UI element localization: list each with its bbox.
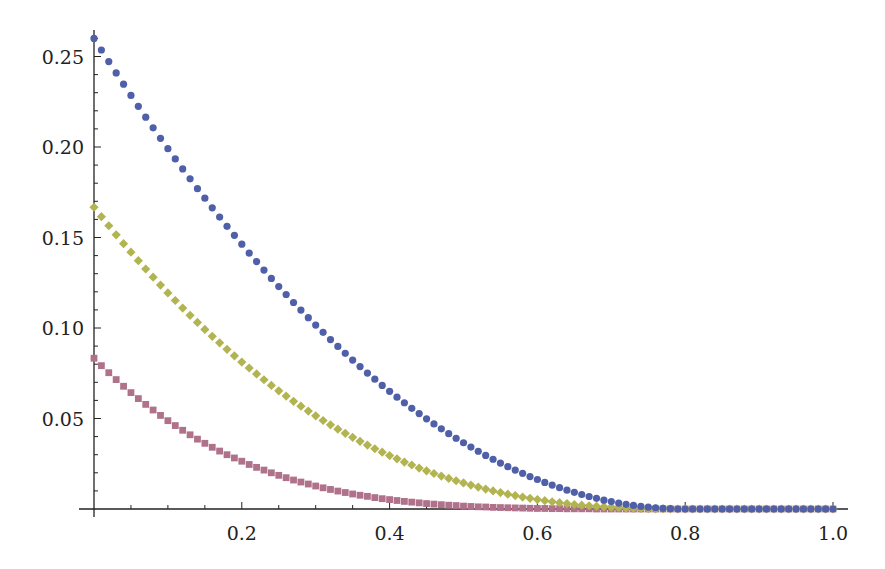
data-point-circle [319, 329, 326, 336]
data-point-circle [497, 459, 504, 466]
x-tick-label: 0.4 [374, 522, 404, 544]
tick-labels: 0.20.40.60.81.00.050.100.150.200.25 [42, 46, 848, 545]
data-point-square [349, 491, 356, 498]
data-point-circle [416, 410, 423, 417]
x-tick-label: 0.6 [522, 522, 552, 544]
data-point-square [371, 494, 378, 501]
data-point-circle [408, 405, 415, 412]
data-point-circle [586, 493, 593, 500]
data-point-square [534, 505, 541, 512]
data-point-circle [223, 223, 230, 230]
data-point-circle [519, 470, 526, 477]
x-tick-label: 1.0 [818, 522, 848, 544]
data-point-circle [593, 495, 600, 502]
data-point-circle [201, 195, 208, 202]
data-point-circle [467, 443, 474, 450]
data-point-diamond [222, 345, 231, 354]
data-point-diamond [525, 494, 534, 503]
data-point-circle [260, 266, 267, 273]
data-point-diamond [348, 433, 357, 442]
data-point-circle [526, 473, 533, 480]
data-point-circle [571, 489, 578, 496]
data-point-circle [334, 343, 341, 350]
data-point-square [209, 444, 216, 451]
data-point-circle [711, 505, 718, 512]
data-point-circle [238, 241, 245, 248]
data-point-circle [179, 165, 186, 172]
data-point-circle [253, 258, 260, 265]
data-point-square [312, 483, 319, 490]
scatter-chart: 0.20.40.60.81.00.050.100.150.200.25 [0, 0, 885, 569]
data-point-circle [312, 322, 319, 329]
data-point-square [231, 455, 238, 462]
data-point-circle [135, 103, 142, 110]
data-point-circle [290, 299, 297, 306]
y-tick-label: 0.05 [42, 408, 84, 430]
data-point-circle [645, 504, 652, 511]
data-point-square [268, 469, 275, 476]
data-point-diamond [237, 357, 246, 366]
data-point-circle [453, 435, 460, 442]
data-point-diamond [459, 478, 468, 487]
data-point-circle [268, 275, 275, 282]
data-point-circle [785, 505, 792, 512]
data-point-square [238, 458, 245, 465]
data-point-circle [489, 456, 496, 463]
data-point-square [179, 427, 186, 434]
data-point-circle [379, 382, 386, 389]
data-point-diamond [156, 281, 165, 290]
data-point-circle [209, 204, 216, 211]
data-point-square [438, 501, 445, 508]
data-point-circle [504, 463, 511, 470]
data-point-square [467, 503, 474, 510]
data-point-square [334, 488, 341, 495]
data-point-circle [778, 505, 785, 512]
data-point-square [460, 503, 467, 510]
data-point-diamond [326, 420, 335, 429]
data-point-diamond [149, 273, 158, 282]
data-point-circle [792, 505, 799, 512]
data-point-circle [386, 388, 393, 395]
data-point-square [364, 493, 371, 500]
data-point-circle [608, 498, 615, 505]
data-point-square [482, 504, 489, 511]
data-point-circle [815, 505, 822, 512]
data-point-circle [349, 356, 356, 363]
data-point-diamond [474, 482, 483, 491]
data-point-diamond [134, 256, 143, 265]
data-point-circle [356, 363, 363, 370]
data-point-diamond [296, 402, 305, 411]
data-point-diamond [259, 375, 268, 384]
data-point-diamond [267, 381, 276, 390]
data-series [89, 35, 837, 514]
data-point-circle [186, 175, 193, 182]
data-point-circle [726, 505, 733, 512]
data-point-square [475, 503, 482, 510]
data-point-square [261, 467, 268, 474]
data-point-square [91, 355, 98, 362]
data-point-circle [541, 479, 548, 486]
data-point-diamond [488, 486, 497, 495]
data-point-diamond [112, 230, 121, 239]
data-point-circle [482, 452, 489, 459]
data-point-square [113, 376, 120, 383]
data-point-circle [438, 425, 445, 432]
data-point-circle [305, 314, 312, 321]
data-point-circle [113, 69, 120, 76]
data-point-circle [172, 155, 179, 162]
series-3 [91, 355, 837, 513]
data-point-circle [512, 466, 519, 473]
data-point-circle [800, 505, 807, 512]
data-point-circle [460, 439, 467, 446]
data-point-circle [763, 505, 770, 512]
data-point-circle [637, 503, 644, 510]
data-point-circle [600, 497, 607, 504]
data-point-circle [563, 487, 570, 494]
data-point-diamond [341, 429, 350, 438]
data-point-square [379, 495, 386, 502]
data-point-diamond [540, 496, 549, 505]
data-point-circle [556, 484, 563, 491]
data-point-square [283, 474, 290, 481]
data-point-circle [90, 35, 97, 42]
data-point-square [298, 479, 305, 486]
